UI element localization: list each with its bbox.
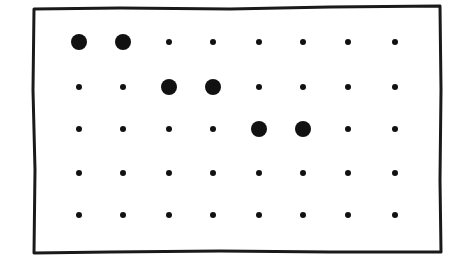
large-dot xyxy=(251,121,267,137)
small-dot xyxy=(392,39,398,45)
small-dot xyxy=(300,170,306,176)
small-dot xyxy=(300,212,306,218)
small-dot xyxy=(345,84,351,90)
small-dot xyxy=(392,212,398,218)
dot-grid-diagram xyxy=(0,0,462,273)
small-dot xyxy=(392,170,398,176)
small-dot xyxy=(392,126,398,132)
small-dot xyxy=(345,39,351,45)
large-dot xyxy=(71,34,87,50)
small-dot xyxy=(256,39,262,45)
small-dot xyxy=(76,212,82,218)
small-dot xyxy=(210,39,216,45)
small-dot xyxy=(210,126,216,132)
small-dot xyxy=(120,84,126,90)
small-dot xyxy=(256,170,262,176)
small-dot xyxy=(166,39,172,45)
small-dot xyxy=(256,212,262,218)
small-dot xyxy=(345,212,351,218)
small-dot xyxy=(166,126,172,132)
frame-border xyxy=(33,6,441,253)
small-dot xyxy=(120,170,126,176)
small-dot xyxy=(120,126,126,132)
small-dot xyxy=(300,39,306,45)
small-dot xyxy=(166,170,172,176)
small-dot xyxy=(166,212,172,218)
small-dot xyxy=(256,84,262,90)
small-dot xyxy=(392,84,398,90)
small-dot xyxy=(210,170,216,176)
small-dot xyxy=(76,170,82,176)
small-dot xyxy=(76,84,82,90)
dot-group xyxy=(71,34,398,218)
small-dot xyxy=(345,126,351,132)
small-dot xyxy=(120,212,126,218)
large-dot xyxy=(115,34,131,50)
large-dot xyxy=(295,121,311,137)
small-dot xyxy=(210,212,216,218)
small-dot xyxy=(345,170,351,176)
small-dot xyxy=(76,126,82,132)
large-dot xyxy=(205,79,221,95)
small-dot xyxy=(300,84,306,90)
large-dot xyxy=(161,79,177,95)
